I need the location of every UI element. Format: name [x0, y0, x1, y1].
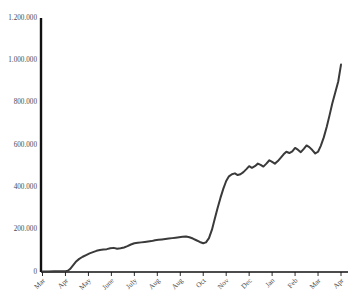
chart-background	[0, 0, 350, 303]
y-axis-tick-label: 200.000	[14, 225, 38, 233]
y-axis-tick-label: 400.000	[14, 183, 38, 191]
y-axis-tick-label: 1.200.000	[8, 14, 37, 22]
y-axis-tick-label: 1.000.000	[8, 56, 37, 64]
chart-canvas: 0200.000400.000600.000800.0001.000.0001.…	[0, 0, 350, 303]
line-chart: 0200.000400.000600.000800.0001.000.0001.…	[0, 0, 350, 303]
y-axis-tick-label: 0	[33, 268, 37, 276]
y-axis-tick-label: 600.000	[14, 141, 38, 149]
y-axis-tick-label: 800.000	[14, 98, 38, 106]
